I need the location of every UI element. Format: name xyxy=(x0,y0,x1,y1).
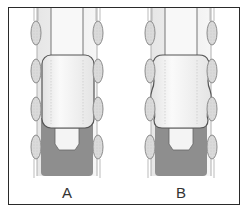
panel-a-label: A xyxy=(57,184,77,201)
panel-a xyxy=(31,8,103,178)
diagram-illustration xyxy=(0,0,247,212)
wavy-block xyxy=(151,55,212,128)
panel-b-label: B xyxy=(171,184,191,201)
panel-b xyxy=(145,8,217,178)
rounded-block xyxy=(42,55,94,128)
plug xyxy=(169,128,193,150)
plug xyxy=(55,128,79,150)
